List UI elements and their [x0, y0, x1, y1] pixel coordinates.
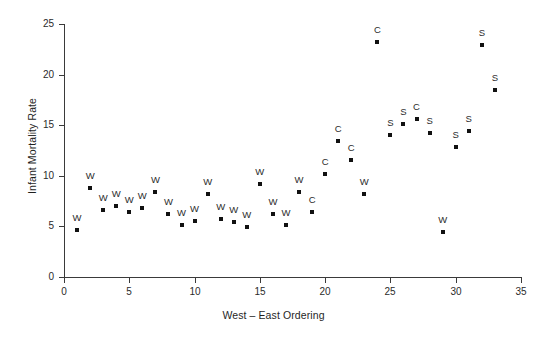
plot-area: 0510152025 05101520253035 WWWWWWWWWWWWWW… [0, 0, 547, 343]
x-tick-label: 20 [310, 286, 340, 298]
y-tick-mark [59, 226, 64, 227]
data-point-marker [441, 230, 445, 234]
data-point-marker [428, 131, 432, 135]
data-point-marker [245, 225, 249, 229]
x-tick-label-text: 15 [245, 286, 275, 298]
data-point-label: W [355, 177, 373, 187]
x-axis-title: West – East Ordering [0, 309, 547, 321]
x-tick-label-text: 10 [180, 286, 210, 298]
data-point-label: W [199, 177, 217, 187]
data-point-label: C [303, 195, 321, 205]
y-tick-label-text: 25 [28, 19, 54, 29]
data-point-label: W [264, 197, 282, 207]
x-tick-mark [64, 278, 65, 283]
data-point-label: C [342, 143, 360, 153]
data-point-marker [153, 190, 157, 194]
data-point-marker [193, 219, 197, 223]
data-point-marker [88, 186, 92, 190]
data-point-marker [349, 158, 353, 162]
data-point-label: W [238, 210, 256, 220]
x-tick-label: 10 [180, 286, 210, 298]
data-point-label: W [68, 213, 86, 223]
x-tick-mark [325, 278, 326, 283]
data-point-label: W [186, 204, 204, 214]
data-point-marker [297, 190, 301, 194]
data-point-label: W [251, 167, 269, 177]
y-axis-title: Infant Mortality Rate [26, 36, 38, 256]
data-point-marker [467, 129, 471, 133]
data-point-label: W [434, 215, 452, 225]
y-tick-mark [59, 75, 64, 76]
data-point-label: S [473, 28, 491, 38]
x-tick-label-text: 0 [49, 286, 79, 298]
x-tick-label-text: 20 [310, 286, 340, 298]
data-point-label: C [316, 157, 334, 167]
data-point-marker [140, 206, 144, 210]
y-axis-line [64, 24, 65, 278]
data-point-label: C [329, 124, 347, 134]
data-point-label: C [408, 102, 426, 112]
data-point-marker [258, 182, 262, 186]
data-point-marker [388, 133, 392, 137]
x-tick-label: 25 [375, 286, 405, 298]
data-point-marker [284, 223, 288, 227]
data-point-label: W [290, 175, 308, 185]
x-tick-mark [195, 278, 196, 283]
data-point-marker [454, 145, 458, 149]
x-tick-mark [521, 278, 522, 283]
x-tick-label: 0 [49, 286, 79, 298]
data-point-label: W [81, 171, 99, 181]
data-point-marker [206, 192, 210, 196]
y-tick-mark [59, 24, 64, 25]
data-point-marker [75, 228, 79, 232]
data-point-marker [101, 208, 105, 212]
data-point-marker [415, 117, 419, 121]
data-point-marker [362, 192, 366, 196]
x-tick-label: 30 [441, 286, 471, 298]
x-tick-label-text: 25 [375, 286, 405, 298]
data-point-marker [310, 210, 314, 214]
x-tick-label: 5 [114, 286, 144, 298]
data-point-marker [401, 122, 405, 126]
data-point-label: W [133, 191, 151, 201]
data-point-marker [114, 204, 118, 208]
scatter-plot-figure: 0510152025 05101520253035 WWWWWWWWWWWWWW… [0, 0, 547, 343]
data-point-marker [127, 210, 131, 214]
data-point-marker [180, 223, 184, 227]
data-point-marker [336, 139, 340, 143]
x-tick-mark [260, 278, 261, 283]
x-tick-mark [129, 278, 130, 283]
y-tick-mark [59, 176, 64, 177]
data-point-marker [323, 172, 327, 176]
data-point-label: S [421, 116, 439, 126]
x-tick-label: 35 [506, 286, 536, 298]
x-tick-mark [456, 278, 457, 283]
x-tick-label: 15 [245, 286, 275, 298]
data-point-label: W [146, 175, 164, 185]
data-point-label: S [381, 118, 399, 128]
data-point-label: S [486, 73, 504, 83]
data-point-marker [219, 217, 223, 221]
x-tick-mark [390, 278, 391, 283]
data-point-marker [271, 212, 275, 216]
y-tick-label: 0 [28, 272, 54, 282]
y-tick-label: 25 [28, 19, 54, 29]
data-point-marker [232, 220, 236, 224]
data-point-label: C [368, 25, 386, 35]
data-point-label: W [159, 197, 177, 207]
x-tick-label-text: 30 [441, 286, 471, 298]
data-point-marker [375, 40, 379, 44]
y-tick-label-text: 0 [28, 272, 54, 282]
x-tick-label-text: 35 [506, 286, 536, 298]
data-point-marker [166, 212, 170, 216]
data-point-marker [480, 43, 484, 47]
x-tick-label-text: 5 [114, 286, 144, 298]
data-point-label: W [277, 208, 295, 218]
y-tick-mark [59, 125, 64, 126]
x-axis-line [64, 277, 522, 278]
data-point-marker [493, 88, 497, 92]
data-point-label: S [460, 114, 478, 124]
data-point-label: S [447, 130, 465, 140]
